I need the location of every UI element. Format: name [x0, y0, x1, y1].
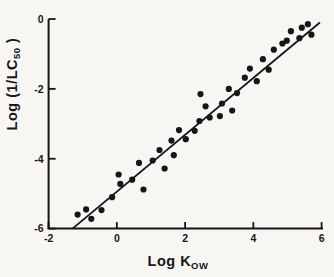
data-point	[260, 56, 266, 62]
data-point	[207, 114, 213, 120]
data-point	[217, 113, 223, 119]
y-axis-label: Log (1/LC50 )	[4, 38, 22, 131]
data-point	[271, 47, 277, 53]
data-point	[305, 21, 311, 27]
x-tick-label: 4	[250, 232, 256, 244]
data-point	[308, 32, 314, 38]
data-point	[284, 38, 290, 44]
x-tick-label: 0	[114, 232, 120, 244]
data-point	[192, 128, 198, 134]
data-point	[234, 90, 240, 96]
data-point	[299, 25, 305, 31]
data-point	[288, 28, 294, 34]
data-point	[168, 138, 174, 144]
data-point	[242, 75, 248, 81]
data-point	[150, 157, 156, 163]
data-point	[183, 136, 189, 142]
y-tick-label: -4	[34, 153, 43, 165]
data-point	[203, 103, 209, 109]
data-point	[226, 86, 232, 92]
axes	[48, 19, 323, 229]
x-tick-label: 2	[182, 232, 188, 244]
data-point	[117, 181, 123, 187]
data-point	[247, 66, 253, 72]
data-point	[219, 100, 225, 106]
data-point	[140, 186, 146, 192]
data-point	[254, 78, 260, 84]
x-tick-label: 6	[319, 232, 325, 244]
x-axis-ticks: -20246	[44, 222, 325, 243]
data-point	[156, 147, 162, 153]
data-point	[136, 160, 142, 166]
y-tick-label: -2	[34, 83, 43, 95]
scatter-plot: -20246 0-2-4-6 Log KOW Log (1/LC50 )	[0, 0, 334, 277]
x-tick-label: -2	[44, 232, 53, 244]
data-point	[229, 107, 235, 113]
figure: -20246 0-2-4-6 Log KOW Log (1/LC50 )	[0, 0, 334, 277]
y-tick-label: -6	[34, 222, 43, 234]
data-point	[75, 212, 81, 218]
y-tick-label: 0	[38, 13, 44, 25]
data-point	[88, 216, 94, 222]
data-point	[116, 171, 122, 177]
data-point	[129, 177, 135, 183]
data-points	[75, 21, 315, 222]
data-point	[83, 206, 89, 212]
y-axis-ticks: 0-2-4-6	[34, 13, 55, 235]
data-point	[176, 127, 182, 133]
data-point	[109, 194, 115, 200]
data-point	[171, 152, 177, 158]
data-point	[98, 207, 104, 213]
data-point	[266, 67, 272, 73]
x-axis-label: Log KOW	[148, 253, 209, 271]
data-point	[196, 118, 202, 124]
data-point	[197, 91, 203, 97]
data-point	[296, 35, 302, 41]
data-point	[162, 165, 168, 171]
